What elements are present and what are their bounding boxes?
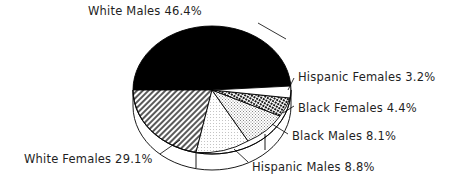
slice-label-black-males: Black Males 8.1% — [292, 131, 396, 143]
pie-slice-white-males — [133, 24, 291, 90]
pie-slices — [133, 24, 291, 153]
slice-label-white-males: White Males 46.4% — [88, 6, 202, 18]
slice-label-hispanic-females: Hispanic Females 3.2% — [298, 72, 435, 84]
leader-line-white-males — [258, 23, 286, 39]
slice-label-hispanic-males: Hispanic Males 8.8% — [252, 162, 375, 174]
pie-chart-figure: White Males 46.4% Hispanic Females 3.2% … — [0, 0, 464, 190]
slice-label-white-females: White Females 29.1% — [24, 154, 153, 166]
slice-label-black-females: Black Females 4.4% — [298, 103, 417, 115]
